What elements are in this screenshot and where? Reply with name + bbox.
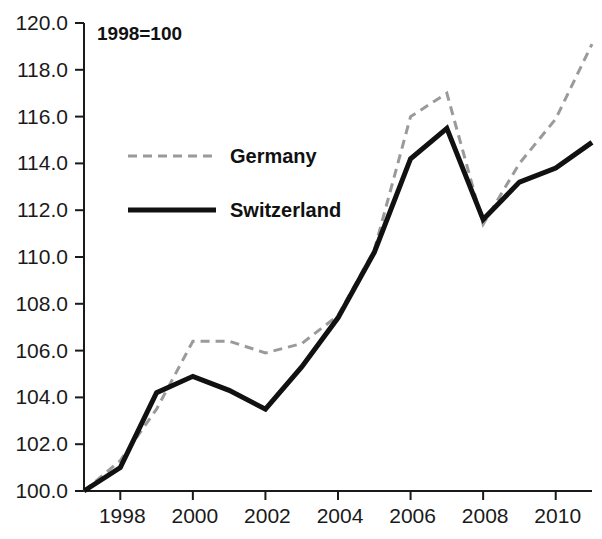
y-tick-label: 112.0 — [17, 198, 68, 221]
legend-label-switzerland: Switzerland — [230, 199, 341, 221]
y-tick-label: 100.0 — [15, 479, 68, 502]
index-base-annotation: 1998=100 — [97, 23, 182, 44]
y-tick-label: 118.0 — [17, 58, 68, 81]
x-tick-label: 2010 — [534, 504, 581, 527]
y-axis-group: 100.0102.0104.0106.0108.0110.0112.0114.0… — [15, 11, 84, 502]
chart-canvas: 100.0102.0104.0106.0108.0110.0112.0114.0… — [0, 0, 602, 539]
x-axis-tick-labels: 1998200020022004200620082010 — [99, 504, 581, 527]
series-line-germany — [84, 44, 592, 491]
y-tick-label: 110.0 — [17, 245, 68, 268]
x-tick-label: 2006 — [389, 504, 436, 527]
line-chart: 100.0102.0104.0106.0108.0110.0112.0114.0… — [0, 0, 602, 539]
y-tick-label: 116.0 — [17, 105, 68, 128]
y-tick-label: 114.0 — [17, 151, 68, 174]
x-axis-group: 1998200020022004200620082010 — [84, 491, 592, 527]
y-tick-label: 108.0 — [15, 292, 68, 315]
y-tick-label: 106.0 — [15, 339, 68, 362]
y-axis-ticks — [75, 23, 84, 491]
x-tick-label: 2000 — [171, 504, 218, 527]
x-tick-label: 2004 — [317, 504, 364, 527]
x-tick-label: 2002 — [244, 504, 291, 527]
y-tick-label: 102.0 — [15, 432, 68, 455]
y-tick-label: 104.0 — [15, 385, 68, 408]
series-line-switzerland — [84, 128, 592, 491]
y-axis-tick-labels: 100.0102.0104.0106.0108.0110.0112.0114.0… — [15, 11, 68, 502]
y-tick-label: 120.0 — [15, 11, 68, 34]
legend-label-germany: Germany — [230, 145, 318, 167]
x-tick-label: 2008 — [462, 504, 509, 527]
data-series-group — [84, 44, 592, 491]
x-axis-ticks — [84, 491, 592, 500]
x-tick-label: 1998 — [99, 504, 146, 527]
chart-legend: GermanySwitzerland — [128, 145, 341, 221]
